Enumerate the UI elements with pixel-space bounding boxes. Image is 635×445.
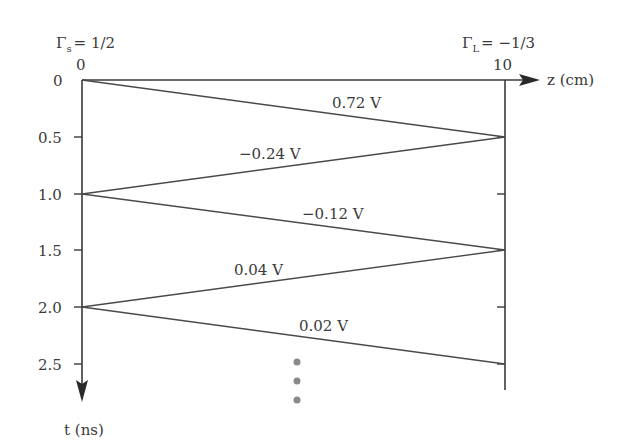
load-reflection-label: ΓL= −1/3	[462, 34, 535, 54]
t-tick-label: 0	[53, 72, 63, 90]
t-axis-ticks	[74, 137, 82, 364]
t-axis-label: t (ns)	[64, 421, 104, 439]
z-start-label: 0	[76, 56, 86, 74]
continuation-dots-icon	[294, 359, 301, 404]
t-tick-label: 1.5	[38, 242, 62, 260]
t-tick-label: 2.0	[38, 299, 62, 317]
t-tick-label: 1.0	[38, 186, 62, 204]
t-tick-label: 2.5	[38, 356, 62, 374]
wave-label: 0.02 V	[299, 317, 349, 335]
bounce-diagram: Γs= 1/2 ΓL= −1/3 z (cm) 0 10 t (ns) 0 0.…	[0, 0, 635, 445]
wave-lines	[82, 80, 505, 364]
z-end-label: 10	[493, 56, 512, 74]
t-tick-label: 0.5	[38, 129, 62, 147]
source-reflection-label: Γs= 1/2	[56, 34, 115, 54]
wave-label: 0.04 V	[234, 261, 284, 279]
z-axis-label: z (cm)	[547, 71, 594, 89]
wave-label: −0.12 V	[302, 205, 365, 223]
wave-label: 0.72 V	[332, 94, 382, 112]
wave-label: −0.24 V	[239, 145, 302, 163]
